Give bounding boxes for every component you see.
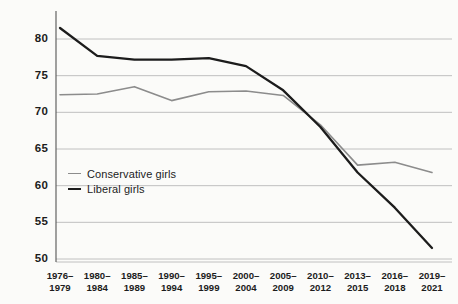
legend-swatch-icon	[68, 188, 81, 190]
data-series	[60, 28, 432, 248]
chart-plot-area	[0, 0, 458, 304]
legend-swatch-icon	[68, 173, 81, 174]
series-line-conservative-girls	[60, 87, 432, 173]
y-tick-label: 65	[22, 142, 48, 154]
series-line-liberal-girls	[60, 28, 432, 248]
x-tick-label-end-year: 2021	[408, 282, 456, 294]
y-tick-label: 70	[22, 105, 48, 117]
legend-item[interactable]: Conservative girls	[68, 166, 176, 181]
x-tick-label: 2019–2021	[408, 270, 456, 293]
x-tick-label-start-year: 2019–	[408, 270, 456, 282]
line-chart: 80757065605550 1976–19791980–19841985–19…	[0, 0, 458, 304]
legend-item[interactable]: Liberal girls	[68, 181, 176, 196]
chart-legend: Conservative girlsLiberal girls	[68, 166, 176, 196]
y-tick-label: 75	[22, 69, 48, 81]
legend-label: Liberal girls	[87, 183, 145, 195]
y-tick-label: 55	[22, 215, 48, 227]
y-tick-label: 60	[22, 179, 48, 191]
y-tick-label: 50	[22, 252, 48, 264]
y-tick-label: 80	[22, 32, 48, 44]
legend-label: Conservative girls	[87, 168, 176, 180]
